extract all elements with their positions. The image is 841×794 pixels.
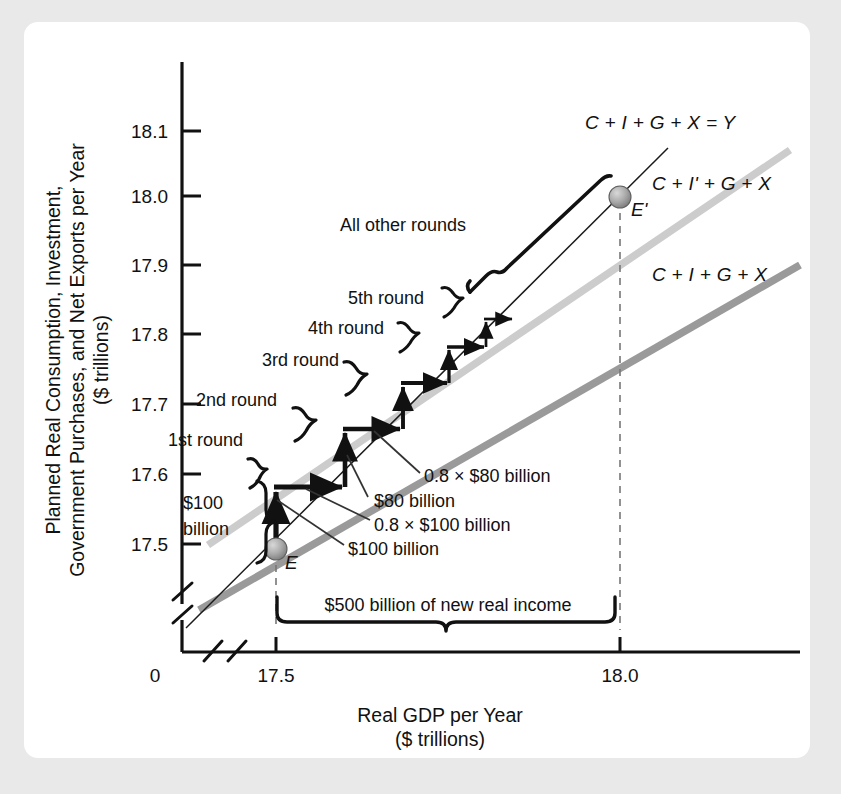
y-tick-label-18-0: 18.0 <box>106 186 168 207</box>
y-tick-label-17-7: 17.7 <box>106 394 168 415</box>
point-label-E-prime: E' <box>631 199 647 220</box>
round-label-5th: 5th round <box>348 288 424 308</box>
equilibrium-point-E-prime[interactable] <box>609 186 631 208</box>
y-axis-title-line1: Planned Real Consumption, Investment, <box>42 80 66 640</box>
equilibrium-droplines <box>276 200 620 630</box>
annotation-step2-vertical: $80 billion <box>374 491 455 511</box>
x-axis-title: Real GDP per Year <box>300 705 580 727</box>
y-tick-label-18-1: 18.1 <box>106 121 168 142</box>
equilibrium-point-E[interactable] <box>265 538 287 560</box>
round-label-4th: 4th round <box>308 318 384 338</box>
curve-label-original-ae: C + I + G + X <box>652 264 767 285</box>
shift-brace-label-line2: billion <box>183 519 255 539</box>
round-label-2nd: 2nd round <box>196 390 277 410</box>
y-axis-title: Planned Real Consumption, Investment, Go… <box>42 80 113 640</box>
point-label-E: E <box>285 552 298 573</box>
y-axis-title-line2: Government Purchases, and Net Exports pe… <box>66 80 90 640</box>
y-tick-label-17-8: 17.8 <box>106 324 168 345</box>
y-tick-label-17-5: 17.5 <box>106 534 168 555</box>
y-axis-title-units: ($ trillions) <box>90 80 114 640</box>
shift-brace-label-line1: $100 <box>183 493 255 513</box>
y-tick-label-17-6: 17.6 <box>106 464 168 485</box>
curve-label-45-degree: C + I + G + X = Y <box>585 112 736 133</box>
y-axis-ticks <box>182 131 201 544</box>
x-tick-label-18-0: 18.0 <box>588 665 652 686</box>
x-axis-ticks <box>276 637 620 652</box>
x-axis-title-units: ($ trillions) <box>300 729 580 751</box>
round-label-all-other: All other rounds <box>340 215 466 235</box>
round-label-1st: 1st round <box>168 430 243 450</box>
annotation-step1-vertical: $100 billion <box>348 539 439 559</box>
annotation-step1-horizontal: 0.8 × $100 billion <box>374 515 511 535</box>
round-label-3rd: 3rd round <box>262 350 339 370</box>
page-root: Planned Real Consumption, Investment, Go… <box>0 0 841 794</box>
curve-label-new-ae: C + I' + G + X <box>652 173 771 194</box>
income-brace-label: $500 billion of new real income <box>287 595 609 615</box>
x-tick-label-17-5: 17.5 <box>244 665 308 686</box>
y-tick-label-17-9: 17.9 <box>106 255 168 276</box>
annotation-step2-horizontal: 0.8 × $80 billion <box>424 466 551 486</box>
x-origin-label: 0 <box>140 665 170 686</box>
